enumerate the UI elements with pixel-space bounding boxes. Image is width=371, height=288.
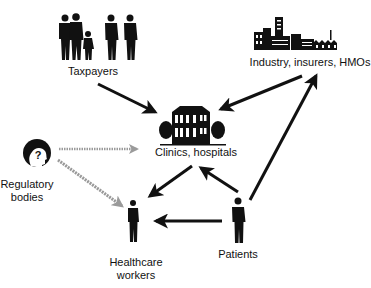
- regulatory-label-line1: Regulatory: [0, 178, 53, 191]
- arrow-taxpayers-to-clinics: [98, 84, 155, 112]
- clinics-label: Clinics, hospitals: [155, 146, 237, 159]
- patients-label: Patients: [218, 248, 258, 261]
- taxpayers-label: Taxpayers: [68, 65, 118, 78]
- people-group-icon: [59, 13, 138, 60]
- arrow-regulatory-to-healthcare: [58, 160, 122, 206]
- healthcare-label-line2: workers: [109, 269, 162, 282]
- edges-regulatory: [58, 149, 137, 206]
- hospital-building-icon: [159, 106, 226, 146]
- arrow-clinics-to-healthcare: [150, 166, 192, 196]
- arrow-patients-to-clinics: [201, 168, 238, 192]
- industry-label: Industry, insurers, HMOs: [250, 56, 371, 69]
- city-skyline-icon: [254, 17, 337, 50]
- arrow-industry-to-clinics: [221, 76, 302, 109]
- regulatory-label-line2: bodies: [0, 191, 53, 204]
- regulatory-label: Regulatory bodies: [0, 178, 53, 204]
- person-figure-icon: [232, 198, 246, 244]
- svg-text:?: ?: [35, 149, 42, 161]
- diagram-canvas: ?: [0, 0, 371, 288]
- healthcare-label: Healthcare workers: [109, 256, 162, 282]
- head-question-icon: ?: [23, 139, 51, 168]
- healthcare-label-line1: Healthcare: [109, 256, 162, 269]
- doctor-figure-icon: [128, 200, 139, 242]
